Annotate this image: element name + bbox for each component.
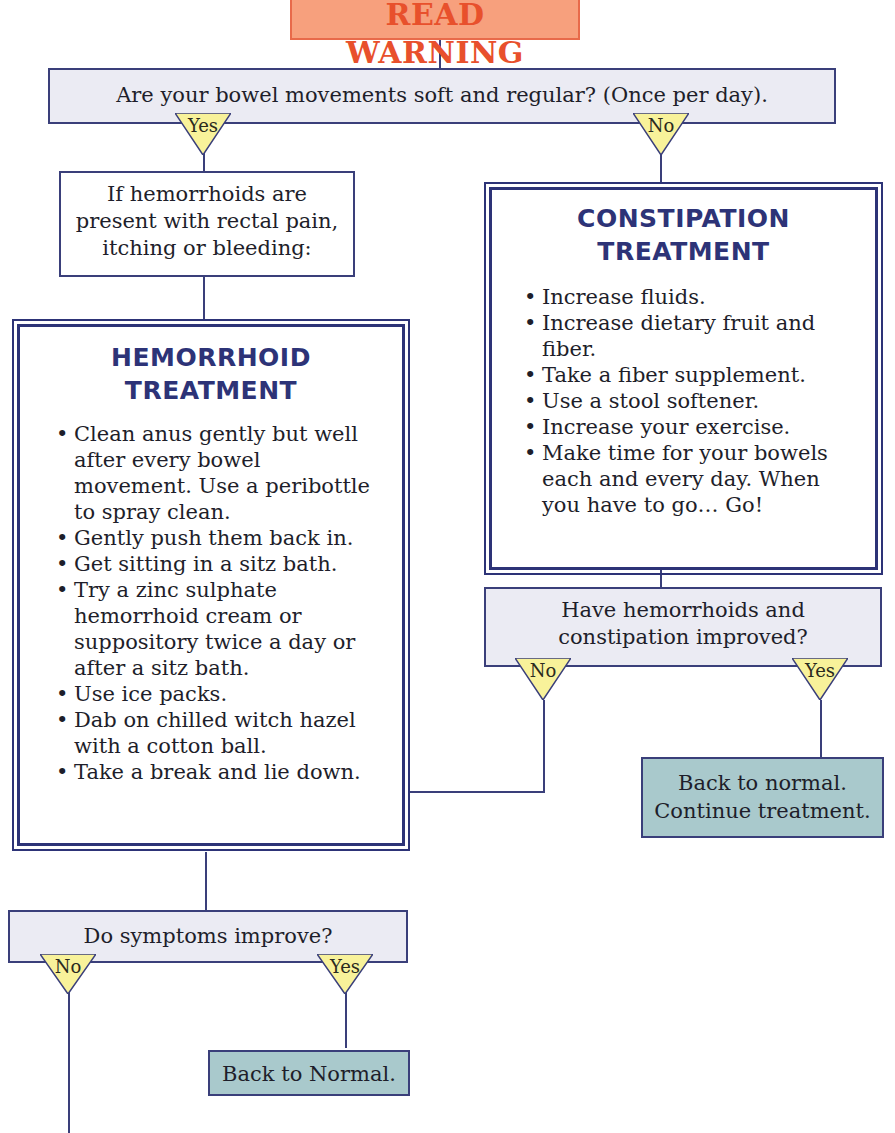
continue-treatment-box: Back to normal. Continue treatment. (641, 757, 884, 838)
connector (345, 992, 347, 1048)
list-item: Increase dietary fruit and fiber. (522, 310, 859, 362)
connector (410, 791, 545, 793)
question-text: Are your bowel movements soft and regula… (116, 83, 768, 107)
list-item: Make time for your bowels each and every… (522, 440, 859, 518)
hemorrhoid-treatment-title: HEMORRHOID TREATMENT (40, 341, 382, 407)
list-item: Use ice packs. (54, 681, 382, 707)
yes-triangle: Yes (175, 113, 231, 155)
list-item: Try a zinc sulphate hemorrhoid cream or … (54, 577, 382, 681)
list-item: Clean anus gently but well after every b… (54, 421, 382, 525)
list-item: Take a break and lie down. (54, 759, 382, 785)
hemorrhoid-check-box: If hemorrhoids are present with rectal p… (59, 171, 355, 277)
list-item: Use a stool softener. (522, 388, 859, 414)
hemorrhoid-treatment-list: Clean anus gently but well after every b… (54, 421, 382, 785)
list-item: Take a fiber supplement. (522, 362, 859, 388)
list-item: Dab on chilled witch hazel with a cotton… (54, 707, 382, 759)
connector (660, 570, 662, 588)
connector (543, 700, 545, 793)
list-item: Increase your exercise. (522, 414, 859, 440)
connector (205, 852, 207, 912)
no-triangle: No (633, 113, 689, 155)
no-triangle: No (515, 658, 571, 700)
connector (68, 992, 70, 1133)
constipation-treatment-box: CONSTIPATION TREATMENT Increase fluids. … (489, 187, 878, 570)
list-item: Get sitting in a sitz bath. (54, 551, 382, 577)
constipation-treatment-list: Increase fluids. Increase dietary fruit … (522, 284, 859, 518)
flowchart: READ WARNING Are your bowel movements so… (0, 0, 895, 1133)
connector (203, 276, 205, 320)
constipation-treatment-title: CONSTIPATION TREATMENT (508, 202, 859, 268)
bowel-question-box: Are your bowel movements soft and regula… (48, 68, 836, 124)
hemorrhoid-treatment-box: HEMORRHOID TREATMENT Clean anus gently b… (17, 324, 405, 846)
list-item: Increase fluids. (522, 284, 859, 310)
connector (660, 150, 662, 184)
list-item: Gently push them back in. (54, 525, 382, 551)
back-to-normal-box: Back to Normal. (208, 1050, 410, 1096)
no-triangle: No (40, 954, 96, 996)
warning-label: READ WARNING (346, 0, 524, 70)
yes-triangle: Yes (317, 954, 373, 996)
improved-question-box: Have hemorrhoids and constipation improv… (484, 587, 882, 667)
connector (820, 700, 822, 758)
read-warning-box: READ WARNING (290, 0, 580, 40)
yes-triangle: Yes (792, 658, 848, 700)
